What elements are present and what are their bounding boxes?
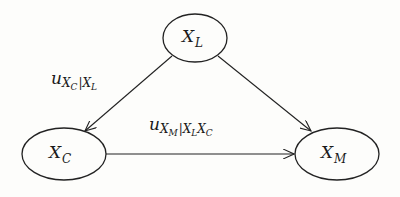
svg-text:XL: XL — [180, 26, 203, 50]
edge-label-xm-given-xl-xc: uXM|XLXC — [149, 114, 213, 138]
node-xc: XC — [22, 128, 106, 180]
svg-text:XM: XM — [319, 142, 347, 166]
edge-label-xc-given-xl: uXC|XL — [51, 68, 97, 92]
edge-xl-to-xm — [218, 56, 311, 131]
diagram-canvas: XL XC XM uXC|XL uXM|XLXC — [0, 0, 400, 197]
svg-text:XC: XC — [47, 142, 71, 166]
node-xm: XM — [295, 128, 379, 180]
node-xl: XL — [163, 14, 227, 62]
